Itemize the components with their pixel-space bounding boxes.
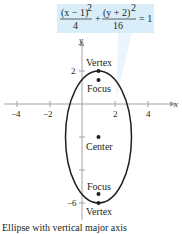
focus-top-dot xyxy=(97,78,101,82)
focus-bottom-dot xyxy=(97,192,101,196)
svg-text:(x − 1): (x − 1) xyxy=(61,7,88,19)
focus-top-label: Focus xyxy=(87,83,111,94)
x-tick-4: 4 xyxy=(146,109,151,119)
axes xyxy=(4,46,170,220)
center-label: Center xyxy=(86,141,113,152)
x-tick-neg4: −4 xyxy=(11,109,21,119)
x-axis-label: x xyxy=(173,99,178,109)
svg-text:2: 2 xyxy=(131,2,136,13)
svg-text:16: 16 xyxy=(113,20,123,31)
vertex-bottom-label: Vertex xyxy=(86,206,112,217)
svg-text:= 1: = 1 xyxy=(139,13,152,24)
x-tick-2: 2 xyxy=(113,109,118,119)
svg-text:(y + 2): (y + 2) xyxy=(103,7,130,19)
svg-text:+: + xyxy=(95,13,101,24)
ellipse-diagram: (x − 1) 2 4 + (y + 2) 2 16 = 1 y x −4 −2… xyxy=(0,0,182,234)
focus-bottom-label: Focus xyxy=(87,181,111,192)
svg-text:4: 4 xyxy=(73,20,78,31)
figure-caption: Ellipse with vertical major axis xyxy=(2,222,127,233)
y-tick-2: 2 xyxy=(71,66,76,76)
vertex-top-label: Vertex xyxy=(86,57,112,68)
y-axis-label: y xyxy=(78,35,83,45)
x-tick-neg2: −2 xyxy=(43,109,53,119)
svg-text:2: 2 xyxy=(87,2,92,13)
vertex-bottom-dot xyxy=(97,201,101,205)
vertex-top-dot xyxy=(97,69,101,73)
y-tick-neg6: −6 xyxy=(67,198,77,208)
center-dot xyxy=(97,135,101,139)
